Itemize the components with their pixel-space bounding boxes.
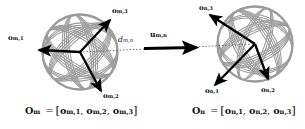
right-frame-equation: On =[on,1, on,2, on,3]	[192, 105, 296, 117]
left-frame-equation: Om =[om,1, om,2, om,3]	[25, 105, 138, 117]
axis-arrow-o-m-1	[39, 50, 80, 52]
axis-label-o-m-2: om,2	[103, 92, 119, 99]
orientation-frames-figure: om,1 om,2 om,3 on,1 on,2 on,3 dm,n um,n …	[0, 0, 305, 129]
translation-direction-arrow	[144, 48, 196, 49]
axis-label-o-n-2: on,2	[261, 86, 275, 93]
direction-label-u-mn: um,n	[150, 31, 167, 39]
axis-label-o-n-3: on,3	[199, 4, 213, 11]
axis-label-o-m-1: om,1	[8, 34, 24, 41]
distance-label-d-mn: dm,n	[118, 36, 133, 44]
axis-label-o-m-3: om,3	[112, 7, 128, 14]
axis-label-o-n-1: on,1	[205, 87, 219, 94]
